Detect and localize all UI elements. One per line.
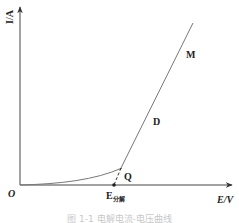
decomposition-point xyxy=(112,183,116,187)
point-label-q: Q xyxy=(124,172,132,182)
iv-curve-diagram xyxy=(0,0,239,223)
decomposition-voltage-label: E分解 xyxy=(106,191,125,202)
residual-current-curve xyxy=(20,168,122,185)
point-label-m: M xyxy=(186,50,195,60)
linear-rise-line xyxy=(120,23,193,170)
x-axis-label: E/V xyxy=(217,195,233,205)
decomposition-label-main: E xyxy=(106,190,113,201)
point-label-d: D xyxy=(153,117,160,127)
decomposition-label-sub: 分解 xyxy=(113,196,125,202)
y-axis-label: I/A xyxy=(5,10,15,24)
origin-label: O xyxy=(8,189,15,199)
figure-caption: 图 1-1 电解电流-电压曲线 xyxy=(0,212,239,223)
